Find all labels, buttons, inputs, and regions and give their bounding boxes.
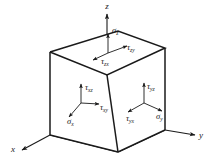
tau-xz-subscript: xz	[87, 87, 93, 93]
sigma-y-subscript: y	[159, 116, 163, 122]
y-axis-line	[165, 130, 195, 135]
cube	[50, 31, 165, 152]
tau-zy-subscript: zy	[129, 47, 135, 53]
x-axis-line	[22, 135, 50, 150]
figure-canvas: z x y σz τzy τzx τxz τxy σx	[0, 0, 213, 158]
tau-xy-subscript: xy	[102, 107, 108, 113]
tau-zx-subscript: zx	[103, 61, 109, 67]
sigma-x-subscript: x	[70, 121, 74, 127]
tau-yz-subscript: yz	[149, 86, 155, 92]
tau-yx-subscript: yx	[128, 118, 134, 124]
axis-label-y: y	[198, 130, 203, 140]
axis-label-x: x	[10, 144, 15, 154]
stress-label-sigma-z: σz	[112, 25, 119, 36]
stress-element-figure: z x y σz τzy τzx τxz τxy σx	[0, 0, 213, 158]
axis-label-z: z	[104, 1, 109, 11]
